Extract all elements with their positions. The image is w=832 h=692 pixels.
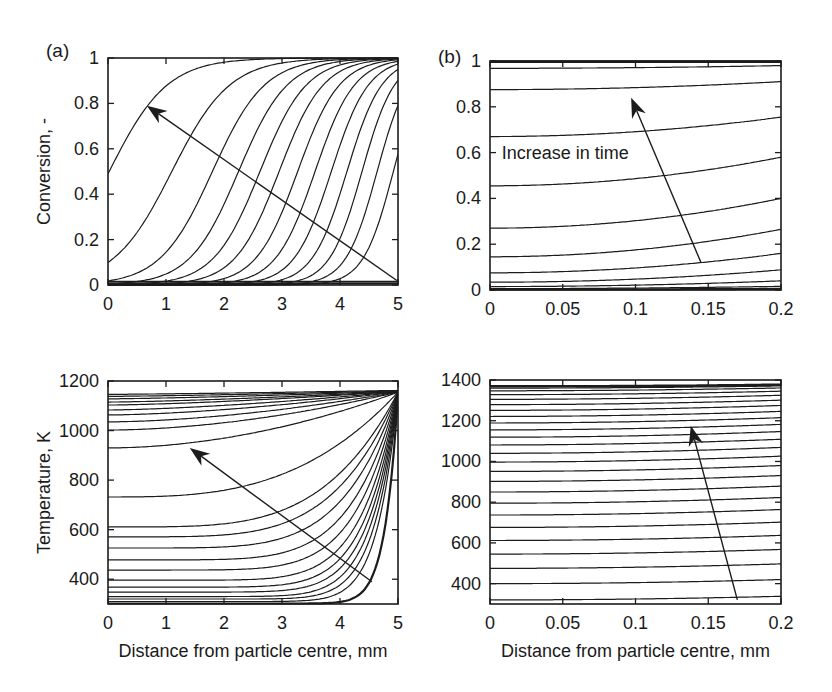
series-line [490, 411, 781, 416]
y-tick-label: 1400 [441, 370, 481, 390]
x-tick-label: 0 [485, 613, 495, 633]
x-tick-label: 0.1 [623, 613, 648, 633]
series-line [490, 400, 781, 404]
series-line [490, 549, 781, 554]
series-line [490, 486, 781, 492]
x-tick-label: 0.05 [545, 613, 580, 633]
series-line [490, 456, 781, 462]
series-line [490, 466, 781, 472]
y-tick-label: 1200 [441, 411, 481, 431]
series-line [490, 522, 781, 527]
series-line [490, 406, 781, 411]
chart-svg-temperature-fine: 00.050.10.150.2400600800100012001400Dist… [0, 0, 832, 692]
subplot-temperature-vs-distance-fine: 00.050.10.150.2400600800100012001400Dist… [0, 0, 832, 692]
y-tick-label: 800 [451, 492, 481, 512]
series-line [490, 424, 781, 430]
x-axis-label: Distance from particle centre, mm [501, 641, 770, 661]
y-tick-label: 400 [451, 574, 481, 594]
series-line [490, 564, 781, 569]
series-line [490, 418, 781, 423]
series-line [490, 476, 781, 482]
series-line [490, 447, 781, 453]
series-line [490, 498, 781, 504]
series-line [490, 535, 781, 540]
y-tick-label: 1000 [441, 451, 481, 471]
series-line [490, 580, 781, 584]
series-line [490, 510, 781, 516]
series-line [490, 432, 781, 438]
series-line [490, 395, 781, 399]
x-tick-label: 0.15 [691, 613, 726, 633]
x-tick-label: 0.2 [768, 613, 793, 633]
y-tick-label: 600 [451, 533, 481, 553]
series-line [490, 439, 781, 445]
figure-canvas: 01234500.20.40.60.81Conversion, -(a) 00.… [0, 0, 832, 692]
series-line [490, 391, 781, 395]
series-group [490, 385, 781, 600]
